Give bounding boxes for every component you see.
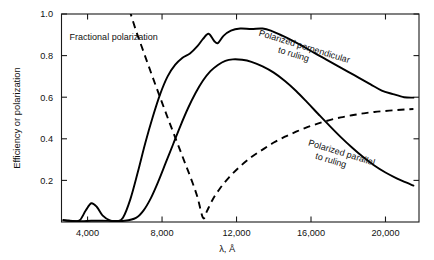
x-tick-label: 4,000 bbox=[76, 228, 99, 238]
y-tick-label: 0.8 bbox=[40, 51, 53, 61]
x-tick-label: 8,000 bbox=[151, 228, 174, 238]
annotation-2-label: Polarized perpendicularto ruling bbox=[255, 28, 351, 75]
annotation-3-label: Polarized parallelto ruling bbox=[304, 138, 376, 178]
chart-svg: 4,0008,00012,00016,00020,000 0.20.40.60.… bbox=[0, 0, 434, 260]
y-tick-label: 1.0 bbox=[40, 9, 53, 19]
plot-border bbox=[62, 14, 420, 222]
x-axis-tick-labels: 4,0008,00012,00016,00020,000 bbox=[76, 228, 399, 238]
curve-annotations: Fractional polarizationPolarized perpend… bbox=[70, 28, 377, 178]
plot-frame bbox=[62, 14, 420, 222]
x-tick-label: 20,000 bbox=[371, 228, 399, 238]
curve-polarized-parallel-to-ruling bbox=[63, 59, 413, 221]
y-axis-tick-labels: 0.20.40.60.81.0 bbox=[40, 9, 53, 185]
x-axis-title: λ, Å bbox=[219, 243, 236, 254]
curve-polarized-perpendicular-to-ruling bbox=[63, 28, 413, 221]
annotation-1-fractional-polarization: Fractional polarization bbox=[70, 32, 158, 42]
x-tick-label: 16,000 bbox=[297, 228, 325, 238]
polarization-efficiency-chart: 4,0008,00012,00016,00020,000 0.20.40.60.… bbox=[0, 0, 434, 260]
y-tick-label: 0.4 bbox=[40, 134, 53, 144]
y-axis-title: Efficiency or polarization bbox=[11, 67, 22, 168]
y-tick-label: 0.2 bbox=[40, 176, 53, 186]
y-tick-label: 0.6 bbox=[40, 93, 53, 103]
x-tick-label: 12,000 bbox=[222, 228, 250, 238]
